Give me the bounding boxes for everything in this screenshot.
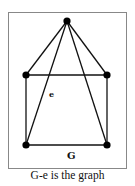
vertex-bottom-left (22, 141, 29, 148)
label-G: G (67, 150, 76, 161)
edge-top-mid-right (67, 21, 107, 75)
graph-figure: eG (0, 0, 135, 186)
graph-edges (26, 21, 107, 145)
vertex-top (63, 17, 70, 24)
edge-top-mid-left (26, 21, 67, 75)
graph-vertices (22, 17, 110, 148)
graph-labels: eG (49, 89, 76, 161)
edge-top-bottom-right (67, 21, 107, 145)
vertex-mid-left (22, 71, 29, 78)
edge-top-bottom-left (26, 21, 67, 145)
figure-caption: G-e is the graph (0, 169, 135, 181)
vertex-mid-right (103, 71, 110, 78)
vertex-bottom-right (103, 141, 110, 148)
label-e: e (49, 89, 54, 99)
